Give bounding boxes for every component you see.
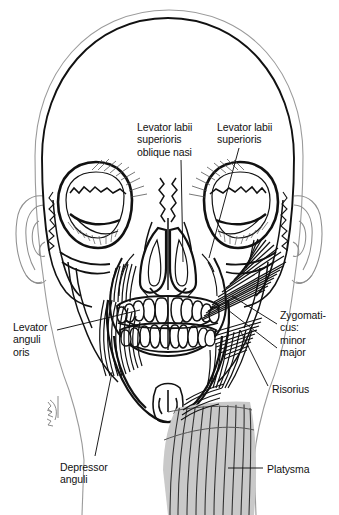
artist-signature: [47, 396, 58, 426]
label-depressor-anguli: Depressor anguli: [60, 461, 108, 486]
ear-left: [16, 196, 46, 284]
ear-right: [292, 196, 322, 284]
platysma: [163, 400, 256, 515]
label-platysma: Platysma: [267, 463, 309, 475]
label-levator-labii-superioris: Levator labii superioris: [217, 121, 272, 146]
facial-muscle-illustration: [0, 0, 339, 515]
leader-zygomaticus-major: [228, 310, 277, 348]
label-levator-labii-superioris-oblique-nasi: Levator labii superioris oblique nasi: [137, 121, 192, 158]
label-levator-anguli-oris: Levator anguli oris: [13, 321, 47, 358]
label-risorius: Risorius: [272, 383, 309, 395]
orbit-left: [58, 162, 132, 248]
leader-depressor-anguli: [95, 372, 112, 456]
leader-risorius: [240, 330, 268, 386]
anatomical-figure: Levator labii superioris oblique nasi Le…: [0, 0, 339, 515]
label-zygomaticus: Zygomati- cus: minor major: [280, 309, 326, 359]
levator-anguli-fibers: [110, 264, 136, 302]
